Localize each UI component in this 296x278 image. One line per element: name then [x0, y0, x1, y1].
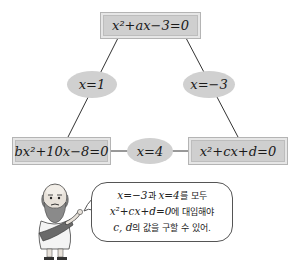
left-branch-ellipse: x=1	[67, 71, 117, 98]
right-branch-ellipse: x=−3	[183, 71, 235, 98]
bubble-line-3: c, d의 값을 구할 수 있어.	[113, 220, 211, 236]
korean-text: 를 모두	[180, 191, 207, 201]
math-text: x=4	[158, 189, 179, 201]
bottom-right-equation: x²+cx+d=0	[191, 140, 285, 162]
korean-text: 의 값을 구할 수 있어.	[132, 223, 210, 233]
math-text: c, d	[113, 221, 132, 233]
bottom-left-equation: bx²+10x−8=0	[15, 140, 108, 162]
bubble-line-1: x=−3과 x=4를 모두	[117, 188, 206, 204]
top-equation-box: x²+ax−3=0	[100, 12, 201, 39]
math-text: x=−3	[117, 189, 147, 201]
speech-bubble: x=−3과 x=4를 모두 x²+cx+d=0에 대입해야 c, d의 값을 구…	[91, 182, 233, 242]
korean-text: 에 대입해야	[171, 207, 214, 217]
top-equation: x²+ax−3=0	[103, 15, 198, 36]
korean-text: 과	[148, 191, 159, 201]
bottom-right-equation-box: x²+cx+d=0	[188, 137, 288, 165]
math-text: x²+cx+d=0	[110, 205, 172, 217]
bottom-left-equation-box: bx²+10x−8=0	[12, 137, 111, 165]
philosopher-character-icon	[33, 183, 89, 265]
center-link-ellipse: x=4	[127, 138, 173, 164]
bubble-line-2: x²+cx+d=0에 대입해야	[110, 204, 215, 220]
